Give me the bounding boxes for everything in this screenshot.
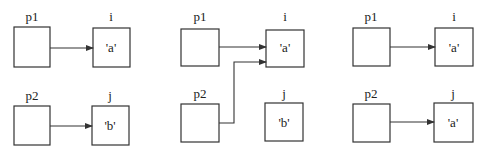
variable-value-j: 'a' — [448, 115, 458, 130]
pointer-label-p2: p2 — [365, 86, 378, 101]
pointer-box-p2 — [181, 104, 219, 142]
pointer-label-p2: p2 — [26, 88, 39, 103]
variable-label-j: j — [450, 86, 455, 101]
panel-1: p1 i 'a' p2 j 'b' — [14, 9, 130, 145]
pointer-label-p1: p1 — [365, 9, 378, 24]
variable-label-j: j — [107, 88, 112, 103]
variable-label-i: i — [452, 9, 456, 24]
pointer-diagram: p1 i 'a' p2 j 'b' p1 i 'a' p2 j 'b' p1 i… — [0, 0, 482, 154]
pointer-box-p2 — [14, 106, 50, 145]
pointer-label-p1: p1 — [194, 9, 207, 24]
variable-value-j: 'b' — [278, 115, 289, 130]
variable-label-i: i — [283, 9, 287, 24]
panel-3: p1 i 'a' p2 j 'a' — [353, 9, 473, 142]
variable-label-i: i — [109, 9, 113, 24]
pointer-box-p1 — [181, 29, 219, 66]
variable-value-j: 'b' — [104, 118, 115, 133]
variable-value-i: 'a' — [106, 40, 116, 55]
pointer-box-p1 — [14, 27, 50, 67]
variable-label-j: j — [281, 86, 286, 101]
pointer-box-p1 — [353, 28, 390, 66]
variable-value-i: 'a' — [449, 40, 459, 55]
pointer-label-p2: p2 — [194, 86, 207, 101]
panel-2: p1 i 'a' p2 j 'b' — [181, 9, 304, 142]
arrow-p2-to-i — [219, 62, 266, 123]
variable-value-i: 'a' — [280, 40, 290, 55]
pointer-label-p1: p1 — [26, 9, 39, 24]
pointer-box-p2 — [353, 104, 390, 142]
